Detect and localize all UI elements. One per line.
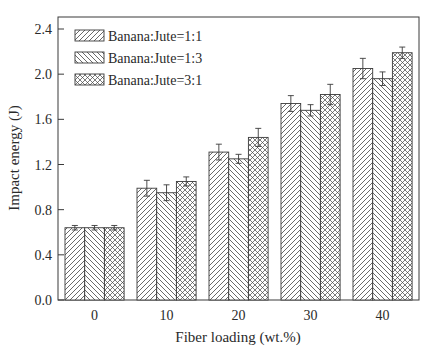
bar <box>301 110 321 300</box>
legend-swatch <box>75 30 104 41</box>
y-tick-label: 0.8 <box>35 203 53 218</box>
x-axis-title: Fiber loading (wt.%) <box>175 329 300 346</box>
x-tick-label: 30 <box>304 308 318 323</box>
y-axis: 0.00.40.81.21.62.02.4 <box>35 22 65 308</box>
x-tick-label: 0 <box>91 308 98 323</box>
bar <box>209 152 229 300</box>
legend-swatch <box>75 74 104 85</box>
bar <box>157 193 177 300</box>
y-tick-label: 2.0 <box>35 67 53 82</box>
bar <box>353 69 373 300</box>
legend-swatch <box>75 52 104 63</box>
bar <box>229 159 249 300</box>
x-axis: 010203040 <box>91 308 390 323</box>
y-tick-label: 2.4 <box>35 22 53 37</box>
y-tick-label: 0.4 <box>35 248 53 263</box>
y-axis-title: Impact energy (J) <box>6 105 23 211</box>
y-tick-label: 1.2 <box>35 158 53 173</box>
bar <box>392 53 412 300</box>
x-tick-label: 40 <box>376 308 390 323</box>
bar <box>85 228 105 300</box>
bar-chart: 0.00.40.81.21.62.02.4 010203040 Banana:J… <box>0 0 432 353</box>
bar <box>65 228 85 300</box>
bar <box>248 137 268 300</box>
bar <box>373 79 393 300</box>
bar <box>137 188 157 300</box>
legend-label: Banana:Jute=1:1 <box>108 29 202 44</box>
bar <box>104 228 124 300</box>
x-tick-label: 10 <box>160 308 174 323</box>
bar <box>281 104 301 300</box>
x-tick-label: 20 <box>232 308 246 323</box>
legend-label: Banana:Jute=3:1 <box>108 73 202 88</box>
legend: Banana:Jute=1:1Banana:Jute=1:3Banana:Jut… <box>75 29 202 88</box>
y-tick-label: 0.0 <box>35 293 53 308</box>
y-tick-label: 1.6 <box>35 112 53 127</box>
legend-label: Banana:Jute=1:3 <box>108 51 202 66</box>
bar <box>176 181 196 300</box>
bar <box>320 94 340 300</box>
